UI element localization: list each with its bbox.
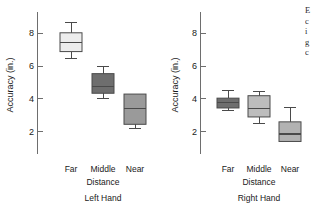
side-text-line-1: E — [305, 5, 331, 16]
boxplot-box — [279, 107, 301, 141]
boxplot-box — [248, 92, 270, 124]
y-tick-label: 4 — [29, 94, 34, 104]
boxplot-figure: 2468FarMiddleNearDistanceLeft Hand2468Fa… — [0, 0, 331, 223]
boxplot-box — [124, 94, 146, 128]
panel-right-hand: 2468FarMiddleNearDistanceRight Hand — [192, 12, 301, 203]
y-tick-label: 6 — [192, 61, 197, 71]
y-axis-label-right: Accuracy (in.) — [170, 57, 180, 112]
y-tick-label: 6 — [29, 61, 34, 71]
x-category-label: Far — [65, 164, 78, 174]
x-axis-label: Distance — [86, 177, 119, 187]
panel-title: Left Hand — [85, 193, 122, 203]
side-text-line-3: i — [305, 26, 331, 37]
y-tick-label: 2 — [192, 127, 197, 137]
box-iqr-rect — [248, 96, 270, 117]
x-category-label: Middle — [90, 164, 115, 174]
side-text-line-4: g — [305, 37, 331, 48]
box-iqr-rect — [217, 98, 239, 108]
x-category-label: Near — [126, 164, 145, 174]
y-tick-label: 8 — [29, 28, 34, 38]
x-category-label: Middle — [246, 164, 271, 174]
boxplot-svg: 2468FarMiddleNearDistanceLeft Hand2468Fa… — [0, 0, 331, 223]
boxplot-box — [217, 91, 239, 111]
x-category-label: Far — [222, 164, 235, 174]
panel-left-hand: 2468FarMiddleNearDistanceLeft Hand — [29, 12, 146, 203]
box-iqr-rect — [92, 74, 114, 94]
box-iqr-rect — [279, 122, 301, 142]
panel-title: Right Hand — [238, 193, 281, 203]
y-tick-label: 8 — [192, 28, 197, 38]
cropped-side-paragraph: E c i g c — [305, 5, 331, 58]
side-text-line-2: c — [305, 16, 331, 27]
boxplot-box — [92, 66, 114, 99]
y-tick-label: 2 — [29, 127, 34, 137]
side-text-line-5: c — [305, 47, 331, 58]
y-axis-label-left: Accuracy (in.) — [5, 57, 15, 112]
x-category-label: Near — [281, 164, 300, 174]
boxplot-box — [60, 23, 82, 58]
y-tick-label: 4 — [192, 94, 197, 104]
x-axis-label: Distance — [242, 177, 275, 187]
